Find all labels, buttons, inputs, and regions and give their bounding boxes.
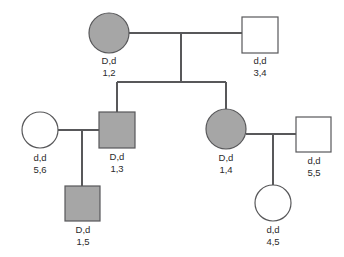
label-i6-genotype: d,d: [284, 155, 344, 167]
individual-i8-unaffected-female[interactable]: [255, 185, 291, 221]
label-i3-markers: 5,6: [10, 164, 70, 176]
individual-i2-unaffected-male[interactable]: [242, 17, 278, 53]
label-i2-markers: 3,4: [230, 67, 290, 79]
individual-i6-unaffected-male[interactable]: [296, 117, 331, 152]
label-i4-markers: 1,3: [87, 163, 147, 175]
label-i2-genotype: d,d: [230, 55, 290, 67]
individual-i7-affected-male[interactable]: [65, 186, 100, 221]
label-i1-genotype: D,d: [79, 55, 139, 67]
label-i4: D,d 1,3: [87, 151, 147, 174]
label-i5-markers: 1,4: [196, 164, 256, 176]
individual-i3-unaffected-female[interactable]: [22, 112, 58, 148]
label-i8-markers: 4,5: [243, 236, 303, 248]
individual-i4-affected-male[interactable]: [99, 112, 135, 148]
individual-i5-affected-female[interactable]: [206, 109, 246, 149]
label-i8-genotype: d,d: [243, 224, 303, 236]
label-i5-genotype: D,d: [196, 152, 256, 164]
label-i3: d,d 5,6: [10, 152, 70, 175]
label-i1: D,d 1,2: [79, 55, 139, 78]
label-i6: d,d 5,5: [284, 155, 344, 178]
label-i7: D,d 1,5: [53, 224, 113, 247]
label-i6-markers: 5,5: [284, 167, 344, 179]
individual-i1-affected-female[interactable]: [89, 13, 129, 53]
label-i7-markers: 1,5: [53, 236, 113, 248]
label-i8: d,d 4,5: [243, 224, 303, 247]
label-i2: d,d 3,4: [230, 55, 290, 78]
label-i4-genotype: D,d: [87, 151, 147, 163]
label-i1-markers: 1,2: [79, 67, 139, 79]
label-i7-genotype: D,d: [53, 224, 113, 236]
pedigree-diagram: D,d 1,2 d,d 3,4 d,d 5,6 D,d 1,3 D,d 1,4 …: [0, 0, 344, 257]
pedigree-canvas: [0, 0, 344, 257]
label-i5: D,d 1,4: [196, 152, 256, 175]
label-i3-genotype: d,d: [10, 152, 70, 164]
